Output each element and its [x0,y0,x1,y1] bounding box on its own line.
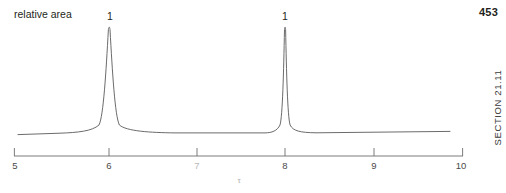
section-marker: SECTION 21.11 [489,48,505,168]
x-tick-label-5: 5 [12,161,17,171]
x-tick-label-7: 7 [194,161,199,171]
x-tick-label-9: 9 [371,161,376,171]
nmr-spectrum-figure: relative area 1 1 5 6 7 8 9 10 τ [0,0,470,193]
page-canvas: 453 SECTION 21.11 relative area 1 1 5 6 … [0,0,506,193]
x-axis [14,148,463,156]
section-marker-label: SECTION 21.11 [492,58,503,158]
page-number: 453 [479,7,498,18]
x-tick-label-8: 8 [282,161,287,171]
x-axis-caption: τ [237,177,240,185]
x-tick-label-10: 10 [456,161,467,171]
x-tick-label-6: 6 [106,161,111,171]
spectrum-plot [0,0,470,193]
spectrum-trace [18,27,450,134]
